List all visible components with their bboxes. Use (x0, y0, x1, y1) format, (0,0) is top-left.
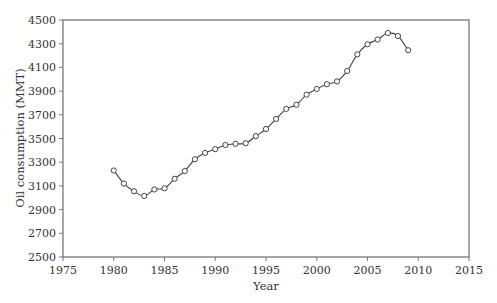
x-axis-ticks: 197519801985199019952000200520102015 (49, 257, 483, 277)
plot-frame (63, 20, 469, 257)
data-point-marker (243, 141, 248, 146)
x-tick-label: 1990 (201, 264, 229, 277)
data-point-marker (375, 37, 380, 42)
x-tick-label: 1980 (100, 264, 128, 277)
y-axis-ticks: 2500270029003100330035003700390041004300… (28, 14, 63, 264)
x-tick-label: 1995 (252, 264, 280, 277)
data-point-marker (395, 33, 400, 38)
y-tick-label: 2700 (28, 227, 56, 240)
x-axis-title: Year (252, 279, 279, 293)
data-point-marker (223, 142, 228, 147)
y-tick-label: 3300 (28, 156, 56, 169)
data-point-marker (355, 52, 360, 57)
data-point-marker (172, 176, 177, 181)
data-series (111, 30, 411, 198)
data-point-marker (385, 30, 390, 35)
x-tick-label: 1975 (49, 264, 77, 277)
data-point-marker (365, 42, 370, 47)
x-tick-label: 2000 (303, 264, 331, 277)
data-point-marker (284, 106, 289, 111)
data-point-marker (203, 150, 208, 155)
data-point-marker (182, 168, 187, 173)
data-point-marker (131, 189, 136, 194)
y-tick-label: 2900 (28, 204, 56, 217)
x-tick-label: 2005 (354, 264, 382, 277)
data-point-marker (162, 186, 167, 191)
oil-consumption-chart: 2500270029003100330035003700390041004300… (0, 0, 497, 303)
x-tick-label: 2010 (404, 264, 432, 277)
data-point-marker (324, 82, 329, 87)
data-point-marker (233, 141, 238, 146)
y-tick-label: 4100 (28, 61, 56, 74)
data-point-marker (406, 48, 411, 53)
x-tick-label: 1985 (151, 264, 179, 277)
y-tick-label: 4500 (28, 14, 56, 27)
data-point-marker (152, 187, 157, 192)
y-tick-label: 4300 (28, 38, 56, 51)
data-point-marker (192, 157, 197, 162)
y-tick-label: 2500 (28, 251, 56, 264)
data-point-marker (274, 116, 279, 121)
data-point-marker (345, 68, 350, 73)
y-tick-label: 3900 (28, 85, 56, 98)
data-point-marker (121, 181, 126, 186)
data-point-marker (294, 102, 299, 107)
data-point-marker (111, 168, 116, 173)
y-tick-label: 3500 (28, 133, 56, 146)
plot-border (63, 20, 469, 257)
data-point-marker (253, 134, 258, 139)
data-point-marker (213, 147, 218, 152)
x-tick-label: 2015 (455, 264, 483, 277)
data-point-marker (142, 193, 147, 198)
data-point-marker (334, 79, 339, 84)
series-line (114, 33, 408, 196)
y-tick-label: 3700 (28, 109, 56, 122)
y-axis-title: Oil consumption (MMT) (13, 68, 27, 207)
data-point-marker (304, 92, 309, 97)
y-tick-label: 3100 (28, 180, 56, 193)
data-point-marker (314, 86, 319, 91)
data-point-marker (263, 126, 268, 131)
